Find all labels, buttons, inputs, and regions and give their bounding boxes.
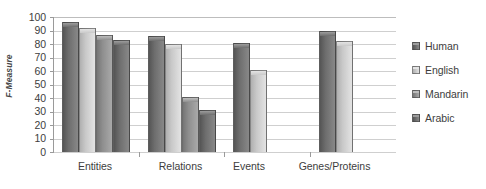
y-axis-tick-label: 50 — [16, 79, 46, 90]
bar-cap — [114, 41, 129, 45]
bar-cap — [337, 42, 352, 46]
bar-events-human — [233, 43, 250, 152]
legend-swatch-cap — [413, 115, 419, 117]
bar-relations-mandarin — [182, 97, 199, 152]
bar-genes-proteins-human — [319, 31, 336, 153]
bar-cap — [63, 23, 78, 27]
bar-genes-proteins-english — [336, 41, 353, 152]
legend-item-english[interactable]: English — [412, 60, 484, 80]
bar-relations-arabic — [199, 110, 216, 152]
bar-chart: F-Measure 1009080706050403020100 Entitie… — [0, 0, 486, 189]
y-axis-tick-label: 10 — [16, 133, 46, 144]
plot-area — [53, 17, 396, 153]
bar-cap — [97, 36, 112, 40]
x-axis-label-genes-proteins: Genes/Proteins — [275, 160, 395, 173]
legend-label: Mandarin — [425, 88, 468, 100]
bar-cap — [200, 111, 215, 115]
bar-entities-english — [79, 28, 96, 152]
bar-entities-arabic — [113, 40, 130, 152]
legend-swatch-cap — [413, 43, 419, 45]
bar-entities-human — [62, 22, 79, 152]
legend-label: English — [425, 64, 459, 76]
bar-cap — [251, 71, 266, 75]
legend-label: Human — [425, 40, 459, 52]
bar-cap — [80, 29, 95, 33]
y-axis-tick-label: 70 — [16, 52, 46, 63]
x-axis-tickmark — [139, 152, 140, 157]
bar-cap — [166, 45, 181, 49]
legend-swatch-cap — [413, 91, 419, 93]
x-axis-tickmark — [224, 152, 225, 157]
bar-cap — [320, 32, 335, 36]
legend-swatch-icon — [412, 42, 420, 50]
bar-cap — [234, 44, 249, 48]
y-axis-title-text: F-Measure — [4, 54, 14, 97]
legend-label: Arabic — [425, 112, 454, 124]
legend-swatch-icon — [412, 90, 420, 98]
bar-relations-human — [148, 36, 165, 152]
legend-item-mandarin[interactable]: Mandarin — [412, 84, 484, 104]
bar-cap — [149, 37, 164, 41]
y-axis-tick-label: 30 — [16, 106, 46, 117]
y-axis-tick-labels: 1009080706050403020100 — [17, 11, 49, 158]
gridline — [54, 152, 396, 153]
bar-events-english — [250, 70, 267, 152]
bars-layer — [54, 17, 396, 152]
legend-swatch-cap — [413, 67, 419, 69]
bar-relations-english — [165, 44, 182, 152]
y-axis-tick-label: 60 — [16, 66, 46, 77]
legend-item-arabic[interactable]: Arabic — [412, 108, 484, 128]
y-axis-tick-label: 90 — [16, 25, 46, 36]
x-axis-tickmark — [310, 152, 311, 157]
chart-legend: HumanEnglishMandarinArabic — [412, 36, 484, 132]
y-axis-tick-label: 0 — [16, 147, 46, 158]
legend-item-human[interactable]: Human — [412, 36, 484, 56]
y-axis-tick-label: 100 — [16, 12, 46, 23]
y-axis-tick-label: 80 — [16, 39, 46, 50]
bar-entities-mandarin — [96, 35, 113, 152]
y-axis-tick-label: 20 — [16, 120, 46, 131]
bar-cap — [183, 98, 198, 102]
legend-swatch-icon — [412, 66, 420, 74]
y-axis-tick-label: 40 — [16, 93, 46, 104]
x-axis-category-labels: EntitiesRelationsEventsGenes/Proteins — [53, 160, 395, 176]
y-axis-tickmark — [50, 152, 54, 153]
legend-swatch-icon — [412, 114, 420, 122]
